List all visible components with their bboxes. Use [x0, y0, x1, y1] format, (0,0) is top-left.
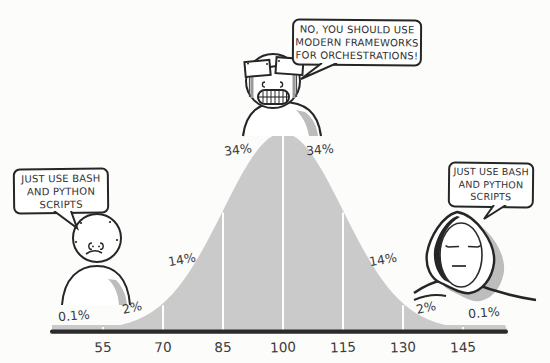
x-tick-label: 55	[83, 338, 124, 355]
segment-label: 0.1%	[57, 307, 90, 325]
x-tick-label: 145	[443, 338, 484, 355]
speech-bubble-left: JUST USE BASH AND PYTHON SCRIPTS	[13, 167, 109, 214]
x-axis-line	[50, 330, 508, 334]
x-tick-label: 100	[263, 338, 304, 355]
gridlines	[103, 135, 463, 330]
speech-bubble-left-text: JUST USE BASH AND PYTHON SCRIPTS	[21, 171, 101, 211]
face	[440, 223, 482, 287]
x-tick-label: 70	[143, 338, 184, 355]
speech-bubble-tail-center	[299, 63, 341, 83]
speech-bubble-center: NO, YOU SHOULD USE MODERN FRAMEWORKS FOR…	[292, 19, 422, 67]
x-tick-label: 115	[323, 338, 364, 355]
speech-bubble-right: JUST USE BASH AND PYTHON SCRIPTS	[448, 162, 534, 209]
speech-bubble-center-text: NO, YOU SHOULD USE MODERN FRAMEWORKS FOR…	[295, 23, 419, 63]
glasses-bridge	[270, 66, 276, 67]
speech-bubble-right-text: JUST USE BASH AND PYTHON SCRIPTS	[453, 166, 529, 204]
speech-bubble-tail-right	[480, 205, 510, 223]
speech-bubble-tail-left	[50, 211, 82, 231]
bell-curve-meme: JUST USE BASH AND PYTHON SCRIPTS NO, YOU…	[0, 0, 550, 363]
segment-label: 0.1%	[467, 304, 500, 322]
teeth	[263, 91, 287, 103]
left-glasses-lens	[244, 60, 270, 77]
segment-label: 34%	[305, 141, 334, 158]
hooded-sage-figure	[412, 203, 542, 305]
x-tick-label: 130	[383, 338, 424, 355]
x-tick-label: 85	[203, 338, 244, 355]
